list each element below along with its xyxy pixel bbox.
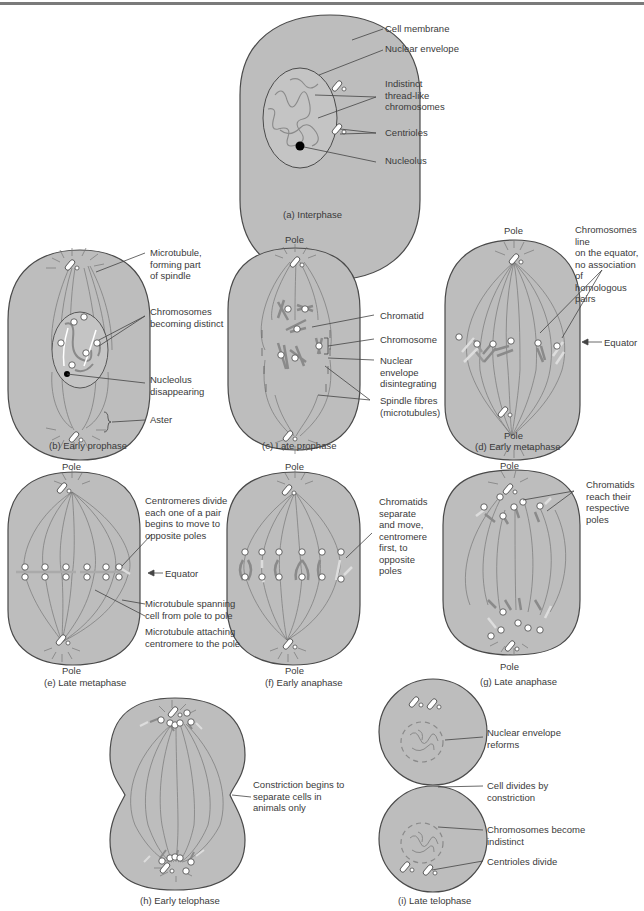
label-chromosomes-equator: Chromosomes line on the equator, no asso…	[575, 224, 644, 305]
caption-late-anaphase: (g) Late anaphase	[480, 676, 557, 687]
caption-early-prophase: (b) Early prophase	[49, 440, 127, 451]
label-chromosomes-distinct: Chromosomes becoming distinct	[150, 306, 223, 329]
caption-early-telophase: (h) Early telophase	[140, 895, 220, 906]
label-chromatids-reach: Chromatids reach their respective poles	[586, 479, 635, 525]
label-constriction-begins: Constriction begins to separate cells in…	[253, 779, 344, 814]
cell-late-metaphase	[8, 470, 163, 665]
caption-late-prophase: (c) Late prophase	[262, 440, 336, 451]
label-equator: Equator	[165, 568, 198, 580]
label-pole: Pole	[500, 460, 519, 471]
label-centrioles-divide: Centrioles divide	[487, 856, 557, 868]
label-pole: Pole	[285, 665, 304, 676]
label-nucleolus-disappearing: Nucleolus disappearing	[150, 374, 204, 397]
label-cell-membrane: Cell membrane	[385, 23, 449, 35]
cell-early-prophase	[8, 248, 150, 460]
caption-early-metaphase: (d) Early metaphase	[475, 441, 561, 452]
caption-late-metaphase: (e) Late metaphase	[44, 677, 126, 688]
label-microtubule-spindle: Microtubule, forming part of spindle	[150, 247, 202, 282]
label-chromosomes-indistinct: Chromosomes become indistinct	[487, 824, 585, 847]
label-pole: Pole	[62, 665, 81, 676]
label-pole: Pole	[500, 661, 519, 672]
label-nucleolus: Nucleolus	[385, 155, 427, 167]
label-pole: Pole	[504, 225, 523, 236]
caption-early-anaphase: (f) Early anaphase	[265, 677, 343, 688]
label-pole: Pole	[62, 461, 81, 472]
label-cell-divides: Cell divides by constriction	[487, 780, 548, 803]
cell-late-prophase	[228, 244, 374, 454]
label-chromatid: Chromatid	[380, 310, 424, 322]
label-equator: Equator	[604, 337, 637, 349]
label-pole: Pole	[504, 430, 523, 441]
label-microtubule-spanning: Microtubule spanning cell from pole to p…	[145, 598, 235, 621]
label-nuclear-envelope-disintegrating: Nuclear envelope disintegrating	[380, 355, 437, 390]
cell-early-telophase	[110, 698, 251, 890]
label-nuclear-envelope: Nuclear envelope	[385, 43, 459, 55]
label-thread-chromosomes: Indistinct thread-like chromosomes	[385, 78, 445, 113]
label-nuclear-envelope-reforms: Nuclear envelope reforms	[487, 727, 561, 750]
caption-interphase: (a) Interphase	[283, 209, 342, 220]
cell-late-anaphase	[443, 470, 580, 655]
cell-interphase	[240, 15, 420, 280]
label-pole: Pole	[285, 461, 304, 472]
label-chromosome: Chromosome	[380, 334, 437, 346]
label-chromatids-separate: Chromatids separate and move, centromere…	[379, 496, 428, 577]
label-pole: Pole	[285, 234, 304, 245]
label-centromeres-divide: Centromeres divide each one of a pair be…	[145, 495, 227, 541]
label-centrioles: Centrioles	[385, 127, 428, 139]
label-microtubule-attaching: Microtubule attaching centromere to the …	[145, 626, 240, 649]
caption-late-telophase: (i) Late telophase	[398, 895, 471, 906]
cell-early-anaphase	[227, 470, 372, 665]
label-spindle-fibres: Spindle fibres (microtubules)	[380, 395, 440, 418]
cell-late-telophase	[379, 679, 487, 892]
label-aster: Aster	[150, 414, 172, 426]
mitosis-diagram	[0, 0, 644, 911]
